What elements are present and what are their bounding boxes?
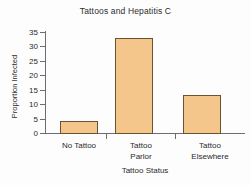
x-category-label-no-tattoo: No Tattoo <box>48 141 110 152</box>
y-tick-label-20: 20 <box>2 71 38 80</box>
y-axis-tick-labels: 0 5 10 15 20 25 30 35 <box>0 0 38 185</box>
category-separator-1 <box>106 134 107 139</box>
bar-tattoo-parlor <box>115 38 153 134</box>
x-category-label-tattoo-elsewhere: Tattoo Elsewhere <box>175 141 245 162</box>
x-category-label-line: Parlor <box>110 152 172 163</box>
y-tick-label-0: 0 <box>2 129 38 138</box>
category-separator-2 <box>175 134 176 139</box>
bar-chart-figure: Tattoos and Hepatitis C Proportion Infec… <box>0 0 251 185</box>
y-tick-label-5: 5 <box>2 114 38 123</box>
y-tick-label-25: 25 <box>2 56 38 65</box>
x-category-label-line: Elsewhere <box>175 152 245 163</box>
y-tick-label-15: 15 <box>2 85 38 94</box>
x-axis-title: Tattoo Status <box>45 166 245 175</box>
y-tick-label-30: 30 <box>2 42 38 51</box>
y-tick-label-10: 10 <box>2 100 38 109</box>
x-category-label-line: Tattoo <box>110 141 172 152</box>
bar-tattoo-elsewhere <box>183 95 221 134</box>
x-category-label-tattoo-parlor: Tattoo Parlor <box>110 141 172 162</box>
x-category-label-line: No Tattoo <box>48 141 110 152</box>
x-category-label-line: Tattoo <box>175 141 245 152</box>
bar-no-tattoo <box>60 121 98 134</box>
y-axis-line <box>45 31 46 134</box>
y-tick-label-35: 35 <box>2 28 38 37</box>
